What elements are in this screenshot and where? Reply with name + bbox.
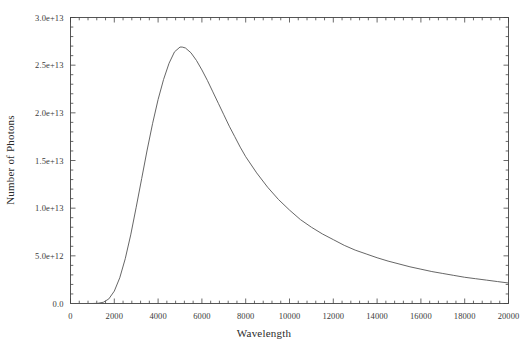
y-tick-label: 2.0e+13 [35, 109, 63, 118]
y-tick-label: 1.5e+13 [35, 156, 63, 165]
x-axis-title: Wavelength [0, 327, 528, 339]
y-tick-label: 1.0e+13 [35, 204, 63, 213]
x-tick-label: 18000 [454, 312, 476, 321]
x-tick-label: 4000 [149, 312, 166, 321]
x-tick-label: 8000 [237, 312, 254, 321]
y-tick-label: 3.0e+13 [35, 13, 63, 22]
y-tick-label: 2.5e+13 [35, 61, 63, 70]
x-tick-label: 12000 [322, 312, 344, 321]
x-tick-label: 0 [68, 312, 72, 321]
x-tick-label: 16000 [410, 312, 432, 321]
plot-area [0, 0, 528, 348]
axis-ticks [71, 18, 509, 304]
data-series-curve [71, 47, 509, 303]
x-tick-label: 14000 [366, 312, 388, 321]
y-tick-label: 0.0 [53, 299, 64, 308]
series-line [71, 47, 509, 303]
y-tick-label: 5.0e+12 [35, 252, 63, 261]
axes-frame [71, 18, 509, 304]
x-tick-label: 2000 [106, 312, 123, 321]
chart-figure: 0.05.0e+121.0e+131.5e+132.0e+132.5e+133.… [0, 0, 528, 348]
x-tick-label: 10000 [279, 312, 301, 321]
x-tick-label: 20000 [498, 312, 520, 321]
y-axis-title: Number of Photons [2, 17, 18, 303]
x-tick-label: 6000 [193, 312, 210, 321]
